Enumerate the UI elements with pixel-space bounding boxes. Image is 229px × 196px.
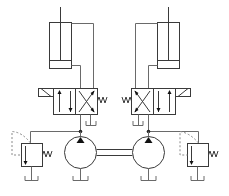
right-pump-icon (133, 137, 165, 169)
left-cylinder-rod-line (72, 66, 81, 89)
right-cylinder-rod-line (149, 66, 158, 89)
hydraulic-schematic (0, 0, 229, 196)
relief-spring-icon (209, 151, 219, 157)
left-solenoid-icon (39, 89, 54, 97)
right-valve-spring-icon (122, 97, 132, 103)
left-directional-valve (39, 89, 108, 115)
right-directional-valve (122, 89, 191, 115)
left-relief-valve (12, 132, 52, 167)
right-solenoid-icon (176, 89, 191, 97)
left-valve-cross-arrows (79, 91, 95, 113)
left-valve-parallel-arrows (58, 90, 73, 112)
common-shaft (97, 150, 133, 156)
left-cylinder (50, 7, 72, 69)
left-pump-icon (65, 137, 97, 169)
right-cylinder-cap-line (136, 24, 158, 89)
right-cylinder (158, 7, 180, 69)
right-valve-parallel-arrows (157, 90, 172, 112)
right-valve-cross-arrows (135, 91, 151, 113)
left-cylinder-cap-line (72, 24, 94, 89)
left-valve-spring-icon (98, 97, 108, 103)
relief-spring-icon (43, 151, 53, 157)
